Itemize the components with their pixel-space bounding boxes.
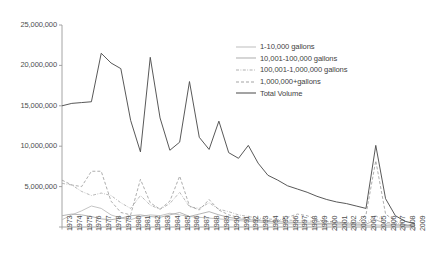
y-tick-label: 10,000,000 — [20, 141, 57, 150]
legend-line-swatch — [236, 54, 256, 62]
x-tick-label: 2004 — [369, 216, 378, 231]
y-tick-label: 5,000,000 — [25, 182, 57, 191]
legend-label: 10,001-100,000 gallons — [260, 54, 337, 63]
x-tick-label: 2007 — [398, 216, 407, 231]
x-tick-label: 1983 — [163, 216, 172, 231]
x-tick-label: 2002 — [349, 216, 358, 231]
y-tick-label: 15,000,000 — [20, 101, 57, 110]
x-tick-label: 1979 — [124, 216, 133, 231]
x-tick-label: 1984 — [173, 216, 182, 231]
x-tick-label: 1977 — [104, 216, 113, 231]
x-tick-label: 1976 — [94, 216, 103, 231]
x-tick-label: 1990 — [232, 216, 241, 231]
x-tick-label: 1981 — [143, 216, 152, 231]
x-tick-label: 1993 — [261, 216, 270, 231]
x-tick-label: 1991 — [242, 216, 251, 231]
x-tick-label: 1974 — [75, 216, 84, 231]
legend-line-swatch — [236, 43, 256, 51]
y-tick-label: 25,000,000 — [20, 20, 57, 29]
x-tick-label: 1996 — [291, 216, 300, 231]
x-tick-label: 1989 — [222, 216, 231, 231]
legend-label: 1,000,000+gallons — [260, 77, 321, 86]
x-tick-label: 1988 — [212, 216, 221, 231]
x-tick-label: 1999 — [320, 216, 329, 231]
x-tick-label: 1987 — [202, 216, 211, 231]
legend-item: Total Volume — [236, 87, 347, 99]
x-tick-label: 1980 — [134, 216, 143, 231]
x-tick-label: 1995 — [281, 216, 290, 231]
x-tick-label: 2009 — [418, 216, 427, 231]
x-tick-label: 1978 — [114, 216, 123, 231]
x-tick-label: 1975 — [85, 216, 94, 231]
chart-legend: 1-10,000 gallons10,001-100,000 gallons10… — [236, 41, 347, 99]
x-tick-label: 2006 — [389, 216, 398, 231]
x-tick-label: 1986 — [192, 216, 201, 231]
legend-label: 1-10,000 gallons — [260, 42, 315, 51]
legend-item: 10,001-100,000 gallons — [236, 53, 347, 65]
legend-label: Total Volume — [260, 89, 302, 98]
legend-item: 1,000,000+gallons — [236, 76, 347, 88]
x-tick-label: 2008 — [408, 216, 417, 231]
legend-label: 100,001-1,000,000 gallons — [260, 65, 347, 74]
x-tick-label: 2005 — [379, 216, 388, 231]
x-tick-label: 1997 — [300, 216, 309, 231]
legend-line-swatch — [236, 66, 256, 74]
x-tick-label: 1985 — [183, 216, 192, 231]
legend-line-swatch — [236, 89, 256, 97]
x-tick-label: 1973 — [65, 216, 74, 231]
x-tick-label: 1982 — [153, 216, 162, 231]
legend-line-swatch — [236, 78, 256, 86]
x-tick-label: 2001 — [340, 216, 349, 231]
x-tick-label: 2000 — [330, 216, 339, 231]
y-tick-label: 20,000,000 — [20, 60, 57, 69]
x-tick-label: 2003 — [359, 216, 368, 231]
x-tick-label: 1992 — [251, 216, 260, 231]
legend-item: 100,001-1,000,000 gallons — [236, 64, 347, 76]
x-tick-label: 1994 — [271, 216, 280, 231]
legend-item: 1-10,000 gallons — [236, 41, 347, 53]
x-tick-label: 1998 — [310, 216, 319, 231]
